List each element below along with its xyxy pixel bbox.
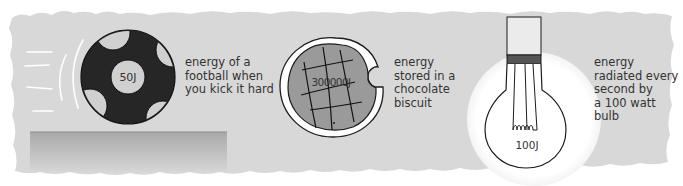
football-caption: energy of a football when you kick it ha… — [185, 56, 274, 97]
biscuit-illustration: 300000J — [280, 38, 383, 137]
bulb-cap — [507, 17, 541, 55]
bulb-caption: energy radiated every second by a 100 wa… — [594, 56, 678, 124]
football-energy-label: 50J — [119, 71, 136, 84]
ground-slab — [30, 132, 227, 172]
biscuit-caption: energy stored in a chocolate biscuit — [394, 56, 455, 110]
bulb-energy-label: 100J — [515, 139, 538, 151]
biscuit-energy-label: 300000J — [312, 76, 351, 88]
bulb-band — [507, 55, 541, 64]
energy-comparison-diagram: 50J 300000J 100J — [0, 0, 683, 186]
